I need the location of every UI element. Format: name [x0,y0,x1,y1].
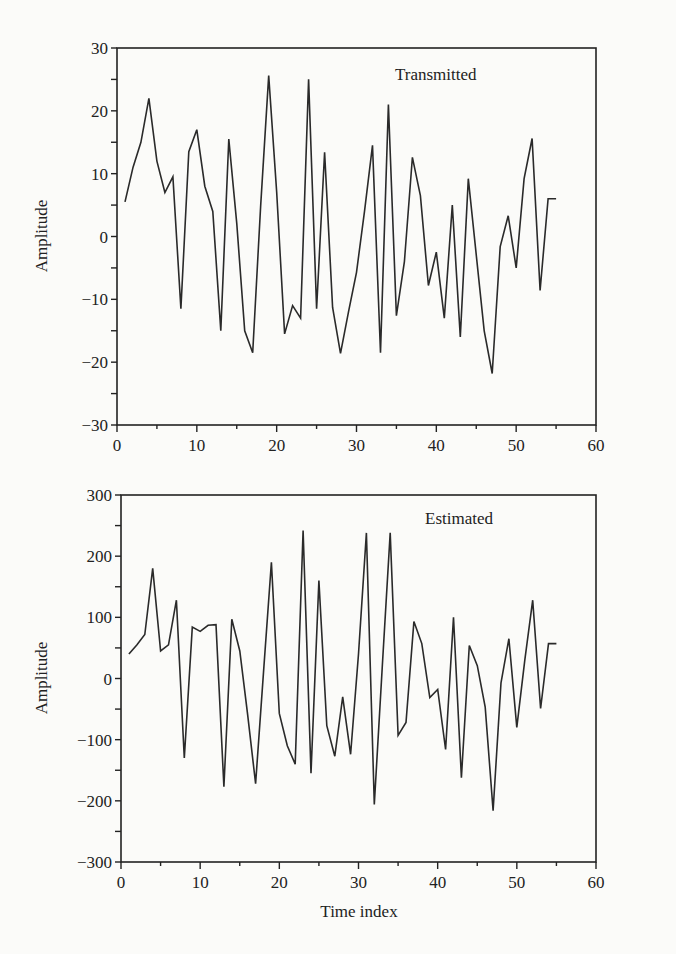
y-tick-label: 0 [104,670,113,689]
x-tick-label: 40 [429,873,446,892]
figure: −30−20−100102030 0102030405060 Transmitt… [0,0,676,954]
y-tick-label: 200 [87,547,113,566]
y-tick-label: −10 [81,290,108,309]
chart-estimated: −300−200−1000100200300 0102030405060 Est… [32,486,605,921]
y-tick-label: 30 [91,39,108,58]
x-tick-label: 60 [588,436,605,455]
x-tick-label: 20 [271,873,288,892]
chart-transmitted: −30−20−100102030 0102030405060 Transmitt… [32,39,605,455]
x-tick-label: 30 [350,873,367,892]
x-axis-label: Time index [320,902,398,921]
x-ticks: 0102030405060 [113,425,605,455]
y-tick-label: −100 [77,731,112,750]
x-tick-label: 50 [508,436,525,455]
x-tick-label: 50 [508,873,525,892]
x-ticks: 0102030405060 [117,862,605,892]
y-tick-label: 20 [91,102,108,121]
x-tick-label: 30 [348,436,365,455]
y-tick-label: 0 [100,228,109,247]
y-ticks: −300−200−1000100200300 [77,486,121,872]
transmitted-series-line [125,76,556,374]
y-axis-label: Amplitude [32,642,51,715]
estimated-series-line [129,531,557,811]
y-tick-label: 10 [91,165,108,184]
y-ticks: −30−20−100102030 [81,39,117,435]
legend-label: Transmitted [395,65,477,84]
x-tick-label: 0 [117,873,126,892]
plot-frame [121,495,596,862]
x-tick-label: 10 [192,873,209,892]
y-tick-label: −30 [81,416,108,435]
x-tick-label: 0 [113,436,122,455]
plot-frame [117,48,596,425]
y-tick-label: 100 [87,608,113,627]
x-tick-label: 20 [268,436,285,455]
y-tick-label: −200 [77,792,112,811]
x-tick-label: 10 [188,436,205,455]
legend-label: Estimated [425,509,493,528]
y-tick-label: 300 [87,486,113,505]
y-tick-label: −300 [77,853,112,872]
x-tick-label: 60 [588,873,605,892]
x-tick-label: 40 [428,436,445,455]
y-axis-label: Amplitude [32,200,51,273]
y-tick-label: −20 [81,353,108,372]
